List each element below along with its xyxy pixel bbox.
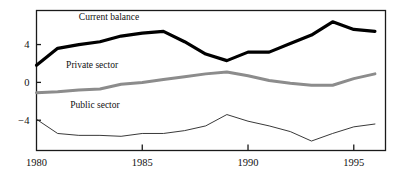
x-tick-label: 1985 <box>132 157 153 168</box>
x-tick-label: 1990 <box>238 157 259 168</box>
y-tick-label: 0 <box>24 77 29 88</box>
chart-container: 40−4 1980198519901995 Current balancePri… <box>0 0 406 184</box>
y-tick-label: −4 <box>18 115 30 126</box>
series-annotation: Current balance <box>79 12 139 22</box>
series-annotation: Public sector <box>70 100 120 110</box>
series-annotation: Private sector <box>66 60 119 70</box>
x-tick-label: 1995 <box>343 157 364 168</box>
x-tick-label: 1980 <box>26 157 47 168</box>
line-chart: 40−4 1980198519901995 Current balancePri… <box>0 0 406 184</box>
y-tick-label: 4 <box>24 39 30 50</box>
